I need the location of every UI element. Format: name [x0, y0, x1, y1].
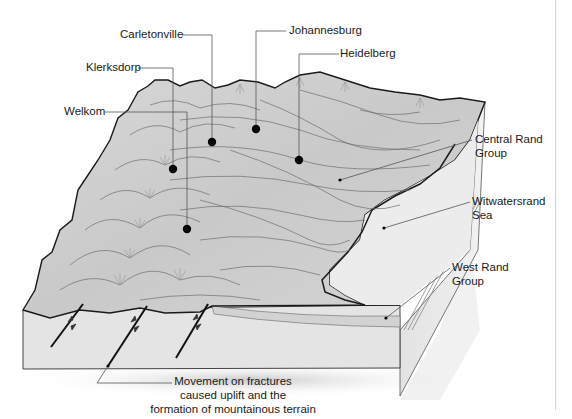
marker-heidelberg: [295, 156, 303, 164]
label-heidelberg: Heidelberg: [340, 46, 396, 60]
marker-welkom: [183, 225, 191, 233]
marker-johannesburg: [252, 125, 260, 133]
page-edge-divider: [555, 0, 556, 410]
label-welkom: Welkom: [64, 104, 105, 118]
label-carletonville: Carletonville: [120, 27, 183, 41]
marker-carletonville: [208, 138, 216, 146]
label-west-rand-group: West Rand Group: [452, 260, 509, 288]
block-front-face: [23, 305, 400, 369]
geologic-block-diagram: Carletonville Johannesburg Heidelberg Kl…: [0, 0, 572, 419]
marker-klerksdorp: [169, 165, 177, 173]
label-fracture-caption: Movement on fractures caused uplift and …: [148, 374, 318, 416]
label-johannesburg: Johannesburg: [289, 23, 362, 37]
label-central-rand-group: Central Rand Group: [475, 132, 543, 160]
label-klerksdorp: Klerksdorp: [86, 60, 141, 74]
label-witwatersrand-sea: Witwatersrand Sea: [472, 194, 546, 222]
